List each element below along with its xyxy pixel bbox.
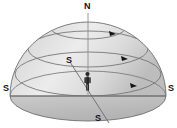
- celestial-sphere-diagram: N S S S S: [0, 0, 177, 128]
- label-south-west-horizon: S: [3, 84, 9, 93]
- label-meridian-upper: S: [66, 56, 72, 65]
- label-meridian-lower: S: [95, 114, 101, 123]
- label-south-east-horizon: S: [168, 84, 174, 93]
- label-north-pole: N: [84, 2, 91, 11]
- diagram-canvas: [0, 0, 177, 128]
